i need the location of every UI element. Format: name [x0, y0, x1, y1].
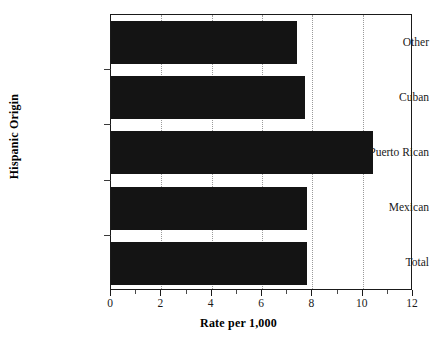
y-axis-title: Hispanic Origin	[7, 57, 22, 217]
x-axis-tick-label-6: 6	[246, 297, 276, 310]
x-axis-tick-0	[110, 290, 111, 296]
x-axis-minor-tick-11	[387, 290, 388, 294]
y-axis-label-other: Other	[331, 36, 435, 48]
x-axis-tick-label-10: 10	[347, 297, 377, 310]
x-axis-minor-tick-3	[186, 290, 187, 294]
bar	[111, 76, 305, 119]
x-axis-title-text: Rate per 1,000	[200, 316, 277, 331]
x-axis-minor-tick-1	[135, 290, 136, 294]
x-axis-tick-6	[261, 290, 262, 296]
x-axis-tick-8	[311, 290, 312, 296]
bar	[111, 21, 297, 64]
bar	[111, 242, 307, 285]
bar-chart: OtherCubanPuerto RicanMexicanTotal 02468…	[0, 0, 435, 348]
x-axis-minor-tick-5	[236, 290, 237, 294]
y-axis-label-cuban: Cuban	[331, 91, 435, 103]
y-axis-label-total: Total	[331, 256, 435, 268]
bar	[111, 187, 307, 230]
x-axis-tick-2	[160, 290, 161, 296]
x-axis-tick-label-8: 8	[296, 297, 326, 310]
y-axis-label-puerto-rican: Puerto Rican	[331, 146, 435, 158]
x-axis-tick-label-0: 0	[95, 297, 125, 310]
x-axis-title: Rate per 1,000	[0, 316, 435, 331]
x-axis-minor-tick-7	[286, 290, 287, 294]
x-axis-tick-12	[412, 290, 413, 296]
y-axis-minor-tick	[104, 124, 111, 125]
x-axis-tick-10	[362, 290, 363, 296]
x-axis-tick-label-12: 12	[397, 297, 427, 310]
x-axis-tick-4	[211, 290, 212, 296]
y-axis-minor-tick	[104, 235, 111, 236]
y-axis-minor-tick	[104, 69, 111, 70]
x-axis-minor-tick-9	[337, 290, 338, 294]
y-axis-label-mexican: Mexican	[331, 201, 435, 213]
x-axis-tick-label-2: 2	[145, 297, 175, 310]
y-axis-minor-tick	[104, 180, 111, 181]
x-axis-tick-label-4: 4	[196, 297, 226, 310]
